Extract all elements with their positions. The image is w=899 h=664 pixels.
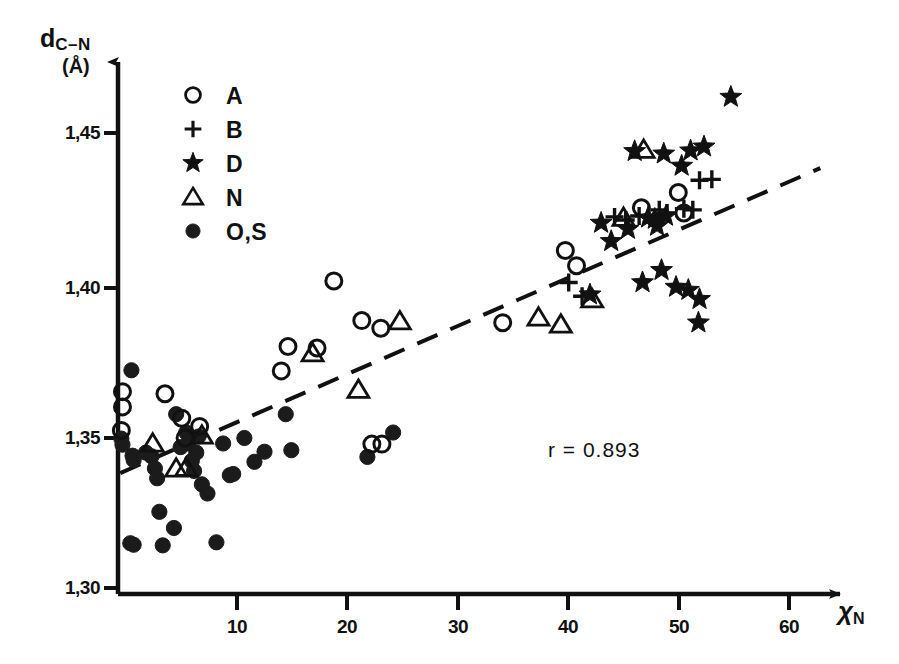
point-filled-circle xyxy=(226,466,241,481)
point-star xyxy=(183,152,203,171)
point-open-circle xyxy=(280,339,296,355)
point-open-circle xyxy=(186,88,201,103)
point-open-triangle xyxy=(348,380,369,397)
legend-label: B xyxy=(226,117,243,144)
point-filled-circle xyxy=(186,224,200,238)
point-open-triangle xyxy=(302,343,323,360)
y-axis-title: dC–N xyxy=(40,26,91,53)
point-open-circle xyxy=(495,315,511,331)
legend-label: D xyxy=(226,151,243,178)
correlation-annotation: r = 0.893 xyxy=(548,438,640,462)
point-open-circle xyxy=(326,273,342,289)
scatter-plot-figure: dC–N (Å) χN 1,45 1,40 1,35 1,30 10 20 30… xyxy=(0,0,899,664)
point-filled-circle xyxy=(284,443,299,458)
point-open-circle xyxy=(373,320,389,336)
x-tick-label: 30 xyxy=(436,616,480,638)
point-open-circle xyxy=(273,363,289,379)
point-filled-circle xyxy=(126,537,141,552)
y-tick-label: 1,40 xyxy=(38,277,100,299)
point-open-triangle xyxy=(183,188,203,204)
point-plus xyxy=(684,201,702,219)
y-tick-label: 1,35 xyxy=(38,427,100,449)
legend-label: N xyxy=(226,185,243,212)
point-open-triangle xyxy=(528,308,549,325)
point-filled-circle xyxy=(189,445,204,460)
series-n xyxy=(142,140,654,476)
point-filled-circle xyxy=(166,520,181,535)
point-open-triangle xyxy=(389,311,410,328)
open-triangle-icon xyxy=(178,182,208,212)
y-axis-unit-label: (Å) xyxy=(62,55,90,78)
point-star xyxy=(687,311,709,332)
open-circle-icon xyxy=(178,80,208,110)
x-tick-label: 50 xyxy=(657,616,701,638)
point-filled-circle xyxy=(257,444,272,459)
point-filled-circle xyxy=(216,436,231,451)
trendline-dashed xyxy=(120,168,820,473)
point-open-circle xyxy=(374,436,390,452)
point-filled-circle xyxy=(150,471,165,486)
point-filled-circle xyxy=(200,486,215,501)
point-filled-circle xyxy=(124,363,139,378)
point-filled-circle xyxy=(155,538,170,553)
x-tick-label: 20 xyxy=(325,616,369,638)
point-open-circle xyxy=(157,386,173,402)
x-axis-title: χN xyxy=(838,596,865,628)
point-filled-circle xyxy=(237,430,252,445)
point-open-circle xyxy=(557,242,573,258)
point-filled-circle xyxy=(152,504,167,519)
x-tick-label: 10 xyxy=(215,616,259,638)
plus-icon xyxy=(178,114,208,144)
legend-label: O,S xyxy=(226,219,267,246)
legend-label: A xyxy=(226,83,243,110)
x-tick-label: 40 xyxy=(546,616,590,638)
regression-trendline xyxy=(120,168,820,473)
y-axis-title-main: d xyxy=(40,24,55,52)
point-star xyxy=(600,230,622,251)
y-axis-title-subscript: C–N xyxy=(55,35,91,54)
point-star xyxy=(653,142,675,163)
point-plus xyxy=(185,121,202,138)
point-plus xyxy=(560,273,578,291)
star-icon xyxy=(178,148,208,178)
point-open-circle xyxy=(354,313,370,329)
x-axis-title-main: χ xyxy=(838,596,853,626)
point-open-triangle xyxy=(550,315,571,332)
y-tick-label: 1,30 xyxy=(38,577,100,599)
point-star xyxy=(693,135,715,156)
point-filled-circle xyxy=(278,407,293,422)
y-tick-label: 1,45 xyxy=(38,122,100,144)
point-open-circle xyxy=(569,258,585,274)
x-axis-ticks xyxy=(237,594,789,610)
point-star xyxy=(590,211,612,232)
filled-circle-icon xyxy=(178,216,208,246)
point-filled-circle xyxy=(209,535,224,550)
point-open-circle xyxy=(309,340,325,356)
x-tick-label: 60 xyxy=(767,616,811,638)
x-axis-title-subscript: N xyxy=(853,610,865,627)
point-star xyxy=(720,86,742,107)
point-star xyxy=(651,259,673,280)
point-star xyxy=(671,154,693,175)
point-plus xyxy=(703,170,721,188)
point-open-circle xyxy=(670,184,686,200)
chart-canvas xyxy=(0,0,899,664)
point-star xyxy=(632,271,654,292)
